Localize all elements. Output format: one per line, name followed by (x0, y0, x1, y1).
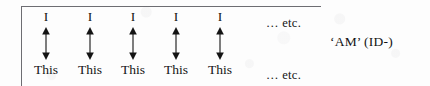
bottom-symbol: This (111, 62, 155, 77)
double-arrow-icon (41, 27, 51, 60)
bottom-symbol: This (24, 62, 68, 77)
bottom-symbol: This (198, 62, 242, 77)
top-symbol: I (154, 10, 198, 24)
figure-canvas: I This I This I (0, 0, 430, 86)
side-annotation-label: ‘AM’ (ID-) (330, 34, 393, 50)
bottom-symbol: This (154, 62, 198, 77)
top-symbol: I (24, 10, 68, 24)
top-symbol: I (68, 10, 112, 24)
top-symbol: I (198, 10, 242, 24)
double-arrow-icon (171, 27, 181, 60)
double-arrow-icon (215, 27, 225, 60)
double-arrow-icon (128, 27, 138, 60)
ellipsis-top: … etc. (266, 16, 301, 30)
ellipsis-bottom: … etc. (266, 68, 301, 82)
double-arrow-icon (85, 27, 95, 60)
top-symbol: I (111, 10, 155, 24)
diagram-frame: I This I This I (21, 6, 321, 86)
bottom-symbol: This (68, 62, 112, 77)
